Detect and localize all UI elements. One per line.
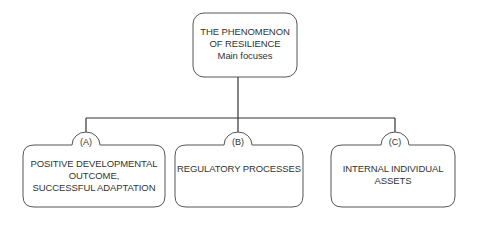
- child-a-line-2: OUTCOME,: [23, 170, 165, 182]
- root-line-2: OF RESILIENCE: [193, 38, 297, 50]
- tag-c: (C): [381, 137, 409, 147]
- child-c-line-1: INTERNAL INDIVIDUAL: [331, 163, 455, 175]
- child-a-line-1: POSITIVE DEVELOPMENTAL: [23, 158, 165, 170]
- root-line-1: THE PHENOMENON: [193, 26, 297, 38]
- child-b-line-1: REGULATORY PROCESSES: [175, 163, 303, 175]
- child-c-line-2: ASSETS: [331, 175, 455, 187]
- root-label: THE PHENOMENON OF RESILIENCE Main focuse…: [193, 26, 297, 62]
- child-a-line-3: SUCCESSFUL ADAPTATION: [23, 182, 165, 194]
- child-label-c: INTERNAL INDIVIDUAL ASSETS: [331, 163, 455, 187]
- tag-a: (A): [72, 137, 100, 147]
- child-label-b: REGULATORY PROCESSES: [175, 163, 303, 175]
- child-label-a: POSITIVE DEVELOPMENTAL OUTCOME, SUCCESSF…: [23, 158, 165, 194]
- tag-b: (B): [224, 137, 252, 147]
- root-line-3: Main focuses: [193, 50, 297, 62]
